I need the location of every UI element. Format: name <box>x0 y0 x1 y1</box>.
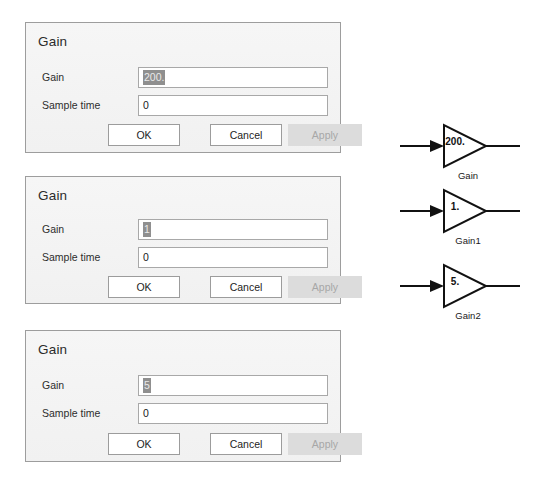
gain-block-0[interactable]: 200. Gain <box>400 120 536 186</box>
simulink-gain-diagram: 200. Gain 1. Gain1 5. Gain2 <box>400 120 536 350</box>
gain-dialog-2[interactable]: Gain Gain 1 Sample time 0 OK Cancel Appl… <box>25 176 341 304</box>
dialog-button-row: OK Cancel Apply <box>26 276 340 298</box>
gain-block-1[interactable]: 1. Gain1 <box>400 185 536 251</box>
gain-field-row: Gain 200. <box>26 67 340 89</box>
sample-time-input[interactable]: 0 <box>138 95 328 116</box>
sample-time-input-value: 0 <box>143 100 149 111</box>
ok-button[interactable]: OK <box>108 124 180 146</box>
gain-field-row: Gain 5 <box>26 375 340 397</box>
gain-dialog-3[interactable]: Gain Gain 5 Sample time 0 OK Cancel Appl… <box>25 330 341 462</box>
gain-block-2[interactable]: 5. Gain2 <box>400 260 536 326</box>
apply-button: Apply <box>288 124 362 146</box>
gain-block-value: 200. <box>438 136 472 147</box>
sample-time-field-row: Sample time 0 <box>26 403 340 425</box>
dialog-button-row: OK Cancel Apply <box>26 433 340 455</box>
gain-input[interactable]: 1 <box>138 219 328 240</box>
sample-time-field-row: Sample time 0 <box>26 95 340 117</box>
dialog-body: Gain Gain 5 Sample time 0 OK Cancel Appl… <box>26 331 340 461</box>
sample-time-field-row: Sample time 0 <box>26 247 340 269</box>
dialog-button-row: OK Cancel Apply <box>26 124 340 146</box>
apply-button: Apply <box>288 433 362 455</box>
sample-time-input-value: 0 <box>143 408 149 419</box>
dialog-title: Gain <box>38 188 67 203</box>
sample-time-field-label: Sample time <box>42 407 100 419</box>
sample-time-field-label: Sample time <box>42 251 100 263</box>
gain-block-name: Gain1 <box>400 235 536 246</box>
sample-time-input-value: 0 <box>143 252 149 263</box>
dialog-title: Gain <box>38 342 67 357</box>
ok-button[interactable]: OK <box>108 276 180 298</box>
gain-input[interactable]: 200. <box>138 67 328 88</box>
ok-button[interactable]: OK <box>108 433 180 455</box>
gain-block-name: Gain <box>400 170 536 181</box>
gain-field-label: Gain <box>42 379 64 391</box>
gain-input-value: 200. <box>143 70 165 86</box>
gain-input-value: 5 <box>143 378 151 394</box>
apply-button: Apply <box>288 276 362 298</box>
gain-input-value: 1 <box>143 222 151 238</box>
gain-input[interactable]: 5 <box>138 375 328 396</box>
gain-block-name: Gain2 <box>400 310 536 321</box>
cancel-button[interactable]: Cancel <box>210 124 282 146</box>
gain-block-value: 5. <box>438 276 472 287</box>
dialog-body: Gain Gain 1 Sample time 0 OK Cancel Appl… <box>26 177 340 303</box>
gain-field-row: Gain 1 <box>26 219 340 241</box>
dialog-body: Gain Gain 200. Sample time 0 OK Cancel A… <box>26 23 340 152</box>
dialog-title: Gain <box>38 34 67 49</box>
gain-field-label: Gain <box>42 71 64 83</box>
sample-time-input[interactable]: 0 <box>138 247 328 268</box>
gain-field-label: Gain <box>42 223 64 235</box>
sample-time-field-label: Sample time <box>42 99 100 111</box>
cancel-button[interactable]: Cancel <box>210 433 282 455</box>
cancel-button[interactable]: Cancel <box>210 276 282 298</box>
sample-time-input[interactable]: 0 <box>138 403 328 424</box>
gain-dialog-1[interactable]: Gain Gain 200. Sample time 0 OK Cancel A… <box>25 22 341 153</box>
gain-block-value: 1. <box>438 201 472 212</box>
